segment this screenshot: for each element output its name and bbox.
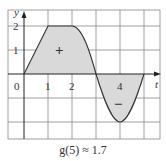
y-tick-1: 1 [13, 44, 19, 56]
plus-annotation: + [55, 42, 64, 58]
minus-annotation: − [114, 96, 123, 112]
chart-svg: y t 0 1 2 4 2 1 + − [0, 0, 166, 161]
y-tick-2: 2 [13, 20, 19, 32]
chart-caption: g(5) ≈ 1.7 [0, 143, 166, 158]
area-chart: y t 0 1 2 4 2 1 + − g(5) ≈ 1.7 [0, 0, 166, 161]
origin-label: 0 [14, 80, 20, 92]
x-tick-2: 2 [69, 80, 75, 92]
t-axis-label: t [155, 78, 159, 90]
x-tick-1: 1 [45, 80, 51, 92]
x-tick-4: 4 [117, 80, 123, 92]
y-axis-label: y [13, 6, 19, 18]
